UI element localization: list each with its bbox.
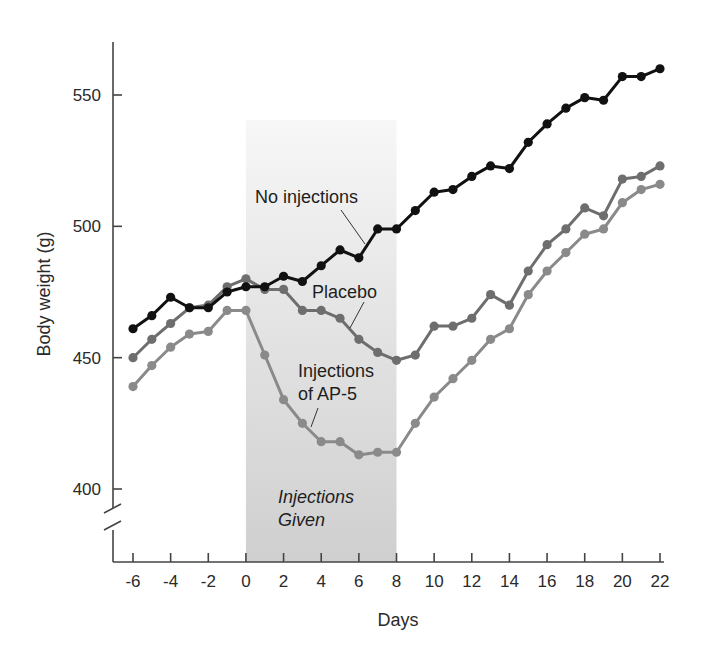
annotation-ap5-line1: Injections bbox=[298, 361, 374, 381]
data-point bbox=[317, 437, 326, 446]
data-point bbox=[335, 314, 344, 323]
data-point bbox=[505, 164, 514, 173]
data-point bbox=[467, 314, 476, 323]
data-point bbox=[580, 203, 589, 212]
y-axis-title: Body weight (g) bbox=[34, 231, 54, 356]
data-point bbox=[335, 437, 344, 446]
x-tick-label: 20 bbox=[613, 572, 632, 591]
x-axis-ticks: -6-4-20246810121416182022 bbox=[125, 553, 669, 591]
y-tick-label: 450 bbox=[73, 349, 101, 368]
data-point bbox=[354, 253, 363, 262]
y-tick-label: 500 bbox=[73, 217, 101, 236]
x-axis-title: Days bbox=[377, 610, 418, 630]
data-point bbox=[204, 327, 213, 336]
annotation-no-injections: No injections bbox=[255, 187, 358, 207]
y-tick-label: 400 bbox=[73, 480, 101, 499]
data-point bbox=[448, 322, 457, 331]
data-point bbox=[655, 180, 664, 189]
data-point bbox=[542, 266, 551, 275]
data-point bbox=[655, 64, 664, 73]
data-point bbox=[524, 138, 533, 147]
data-point bbox=[411, 419, 420, 428]
data-point bbox=[241, 274, 250, 283]
data-point bbox=[147, 335, 156, 344]
line-chart: 400450500550 -6-4-20246810121416182022 N… bbox=[0, 0, 707, 653]
data-point bbox=[128, 382, 137, 391]
data-point bbox=[298, 306, 307, 315]
data-point bbox=[505, 324, 514, 333]
data-point bbox=[373, 448, 382, 457]
data-point bbox=[373, 348, 382, 357]
data-point bbox=[223, 287, 232, 296]
data-point bbox=[448, 374, 457, 383]
x-tick-label: 14 bbox=[500, 572, 519, 591]
data-point bbox=[166, 319, 175, 328]
data-point bbox=[505, 301, 514, 310]
data-point bbox=[561, 224, 570, 233]
data-point bbox=[637, 72, 646, 81]
data-point bbox=[524, 290, 533, 299]
data-point bbox=[392, 224, 401, 233]
data-point bbox=[411, 206, 420, 215]
data-point bbox=[467, 172, 476, 181]
data-point bbox=[599, 211, 608, 220]
x-tick-label: -6 bbox=[125, 572, 140, 591]
shaded-label-line2: Given bbox=[278, 510, 325, 530]
x-tick-label: 18 bbox=[575, 572, 594, 591]
shaded-label-line1: Injections bbox=[278, 487, 354, 507]
series-injections-of-ap-5 bbox=[128, 180, 664, 460]
data-point bbox=[599, 224, 608, 233]
data-point bbox=[618, 72, 627, 81]
data-point bbox=[317, 261, 326, 270]
data-point bbox=[354, 450, 363, 459]
axis-break-mark bbox=[104, 521, 121, 530]
data-point bbox=[279, 395, 288, 404]
data-point bbox=[599, 96, 608, 105]
data-point bbox=[185, 303, 194, 312]
data-point bbox=[317, 306, 326, 315]
data-point bbox=[430, 392, 439, 401]
x-tick-label: -2 bbox=[201, 572, 216, 591]
x-tick-label: 2 bbox=[279, 572, 288, 591]
x-tick-label: 12 bbox=[462, 572, 481, 591]
data-point bbox=[335, 245, 344, 254]
x-tick-label: 0 bbox=[241, 572, 250, 591]
data-point bbox=[580, 93, 589, 102]
data-point bbox=[373, 224, 382, 233]
x-tick-label: -4 bbox=[163, 572, 178, 591]
data-point bbox=[223, 306, 232, 315]
annotation-ap5-line2: of AP-5 bbox=[298, 384, 357, 404]
data-point bbox=[260, 282, 269, 291]
data-point bbox=[279, 285, 288, 294]
data-point bbox=[486, 335, 495, 344]
data-point bbox=[411, 350, 420, 359]
series-layer bbox=[128, 64, 664, 459]
data-point bbox=[166, 343, 175, 352]
data-point bbox=[166, 293, 175, 302]
data-point bbox=[147, 311, 156, 320]
data-point bbox=[655, 161, 664, 170]
data-point bbox=[260, 350, 269, 359]
data-point bbox=[241, 282, 250, 291]
data-point bbox=[354, 335, 363, 344]
data-point bbox=[561, 104, 570, 113]
x-tick-label: 8 bbox=[392, 572, 401, 591]
y-tick-label: 550 bbox=[73, 86, 101, 105]
data-point bbox=[618, 174, 627, 183]
x-tick-label: 16 bbox=[538, 572, 557, 591]
series-no-injections bbox=[128, 64, 664, 333]
data-point bbox=[392, 356, 401, 365]
data-point bbox=[542, 240, 551, 249]
data-point bbox=[241, 306, 250, 315]
data-point bbox=[448, 185, 457, 194]
x-tick-label: 22 bbox=[651, 572, 670, 591]
data-point bbox=[618, 198, 627, 207]
data-point bbox=[430, 188, 439, 197]
data-point bbox=[430, 322, 439, 331]
data-point bbox=[128, 353, 137, 362]
data-point bbox=[147, 361, 156, 370]
data-point bbox=[185, 329, 194, 338]
y-axis-ticks: 400450500550 bbox=[73, 86, 122, 499]
data-point bbox=[542, 119, 551, 128]
x-tick-label: 4 bbox=[316, 572, 325, 591]
